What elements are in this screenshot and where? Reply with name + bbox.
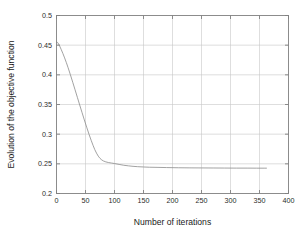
y-tick-label: 0.5	[42, 11, 52, 20]
y-tick-label: 0.35	[38, 100, 52, 109]
x-tick-label: 350	[254, 196, 266, 205]
y-tick-label: 0.3	[42, 130, 52, 139]
x-tick-label: 100	[109, 196, 121, 205]
y-tick-label: 0.2	[42, 189, 52, 198]
y-tick-label: 0.45	[38, 41, 52, 50]
y-axis-title: Evolution of the objective function	[6, 40, 16, 168]
x-axis-title: Number of iterations	[134, 217, 211, 227]
figure-container: 0501001502002503003504000.20.250.30.350.…	[0, 0, 307, 240]
x-tick-label: 300	[225, 196, 237, 205]
x-tick-label: 150	[138, 196, 150, 205]
x-tick-label: 200	[167, 196, 179, 205]
convergence-chart: 0501001502002503003504000.20.250.30.350.…	[0, 0, 307, 240]
x-tick-label: 50	[82, 196, 90, 205]
y-tick-label: 0.25	[38, 159, 52, 168]
x-tick-label: 400	[283, 196, 295, 205]
x-tick-label: 0	[55, 196, 59, 205]
y-tick-label: 0.4	[42, 70, 52, 79]
x-tick-label: 250	[196, 196, 208, 205]
